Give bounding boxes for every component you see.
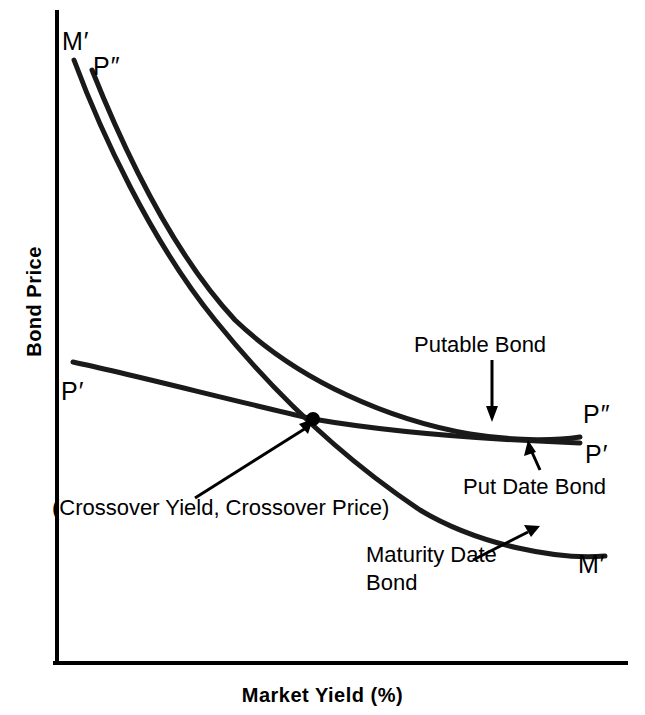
curve-label-maturity-top: M′	[62, 27, 90, 56]
curve-label-putable-top: P″	[93, 52, 121, 81]
chart-figure: Bond Price Market Yield (%) M′ P″ P′ P″ …	[0, 0, 645, 715]
curve-label-putable-right: P″	[583, 400, 611, 429]
chart-plot-area	[0, 0, 645, 715]
y-axis-title: Bond Price	[23, 242, 46, 362]
annotation-maturity-date-bond-line1: Maturity Date	[366, 542, 497, 568]
annotation-putable-bond: Putable Bond	[414, 332, 546, 358]
put-date-bond-leader	[524, 440, 540, 470]
curve-label-putdate-left: P′	[61, 377, 84, 406]
annotation-put-date-bond: Put Date Bond	[463, 474, 606, 500]
x-axis-title: Market Yield (%)	[0, 684, 645, 707]
annotation-crossover-point: (Crossover Yield, Crossover Price)	[52, 495, 389, 521]
crossover-leader	[195, 419, 313, 498]
curve-label-putdate-right: P′	[585, 440, 608, 469]
curve-label-maturity-right: M′	[578, 550, 606, 579]
putable-bond-leader	[486, 360, 498, 422]
annotation-maturity-date-bond-line2: Bond	[366, 570, 417, 596]
series-put-date-bond	[73, 362, 580, 443]
